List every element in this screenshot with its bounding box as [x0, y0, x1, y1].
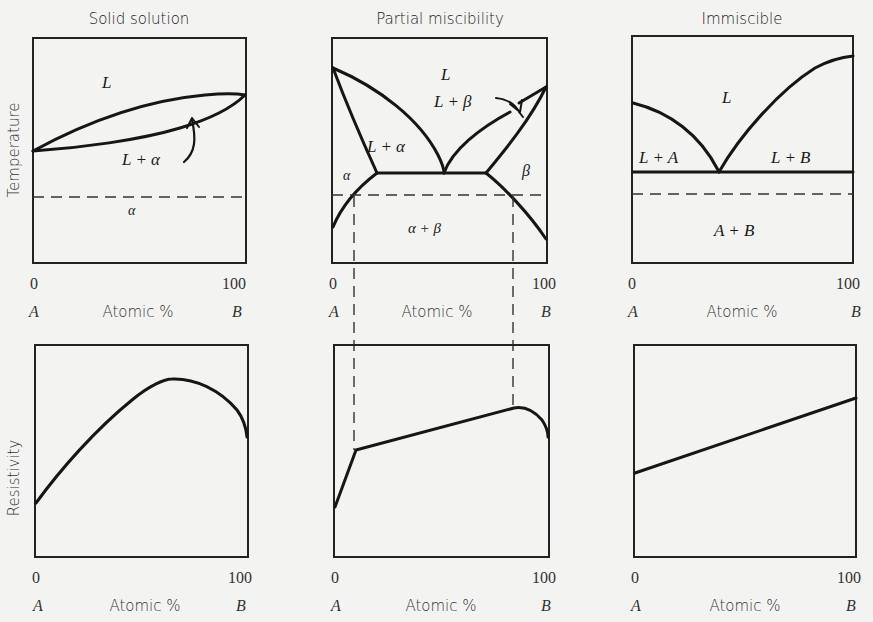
x-tick-0: 0	[628, 275, 636, 292]
liquidus-alpha-curve	[333, 68, 444, 173]
liquidus-beta-curve	[444, 112, 510, 173]
x-end-label-B: B	[541, 303, 551, 320]
x-tick-100: 100	[532, 569, 556, 586]
region-label-L: L	[101, 73, 111, 92]
region-label-L-plus-alpha: L + α	[121, 150, 161, 169]
phase-diagram-solid-solution: L L + α α	[33, 38, 246, 263]
x-tick-100: 100	[532, 275, 556, 292]
region-label-L: L	[440, 65, 450, 84]
x-tick-0: 0	[631, 569, 639, 586]
panel-partial-miscibility: Partial miscibility L L + β	[328, 10, 556, 615]
x-tick-100: 100	[228, 569, 252, 586]
resistivity-plot-immiscible	[634, 345, 856, 557]
x-tick-0: 0	[331, 569, 339, 586]
x-axis-label: Atomic %	[401, 303, 472, 321]
region-label-alpha: α	[128, 203, 136, 218]
panel-immiscible: Immiscible L L + A L + B A + B 0 100 A A…	[627, 10, 861, 615]
region-label-L-plus-alpha: L + α	[366, 137, 406, 156]
solidus-curve	[33, 95, 245, 151]
x-axis-label: Atomic %	[709, 597, 780, 615]
x-axis-label: Atomic %	[102, 303, 173, 321]
phase-diagram-immiscible: L L + A L + B A + B	[632, 36, 853, 263]
region-label-A-plus-B: A + B	[713, 221, 755, 240]
x-end-label-B: B	[541, 597, 551, 614]
x-tick-0: 0	[329, 275, 337, 292]
x-axis-label: Atomic %	[109, 597, 180, 615]
resistivity-plot-solid-solution	[35, 345, 248, 557]
region-label-L-plus-B: L + B	[770, 148, 811, 167]
phase-diagram-figure: Temperature Resistivity Solid solution L…	[0, 0, 873, 622]
x-end-label-A: A	[330, 597, 341, 614]
x-tick-100: 100	[837, 569, 861, 586]
resistivity-curve	[335, 408, 548, 507]
region-label-L-plus-beta: L + β	[433, 92, 472, 111]
x-end-label-A: A	[328, 303, 339, 320]
plot-frame	[35, 345, 248, 557]
x-end-label-B: B	[846, 597, 856, 614]
x-end-label-A: A	[28, 303, 39, 320]
region-label-L: L	[721, 88, 731, 107]
y-axis-label-temperature: Temperature	[5, 102, 23, 197]
x-end-label-A: A	[627, 303, 638, 320]
solvus-beta-curve	[486, 173, 546, 239]
x-tick-100: 100	[222, 275, 246, 292]
x-end-label-B: B	[232, 303, 242, 320]
x-end-label-B: B	[851, 303, 861, 320]
panel-solid-solution: Solid solution L L + α α 0 100 A Atomic …	[28, 10, 252, 615]
x-tick-0: 0	[30, 275, 38, 292]
solidus-alpha-curve	[333, 68, 377, 173]
resistivity-plot-partial-miscibility	[334, 345, 549, 557]
x-tick-100: 100	[836, 275, 860, 292]
liquidus-curve	[33, 94, 245, 151]
solidus-beta-curve	[486, 87, 546, 173]
resistivity-curve	[36, 379, 247, 503]
panel-title: Partial miscibility	[376, 10, 504, 28]
x-axis-label: Atomic %	[706, 303, 777, 321]
x-tick-0: 0	[32, 569, 40, 586]
phase-diagram-partial-miscibility: L L + β L + α α β α + β	[332, 38, 547, 263]
plot-frame	[334, 345, 549, 557]
resistivity-curve	[635, 398, 856, 473]
panel-title: Solid solution	[89, 10, 190, 28]
x-end-label-A: A	[630, 597, 641, 614]
plot-frame	[634, 345, 856, 557]
arrow-tail-mark	[519, 112, 523, 117]
x-axis-label: Atomic %	[405, 597, 476, 615]
region-label-beta: β	[521, 162, 530, 180]
region-label-L-plus-A: L + A	[638, 148, 679, 167]
x-end-label-A: A	[32, 597, 43, 614]
x-end-label-B: B	[236, 597, 246, 614]
region-label-alpha: α	[343, 168, 351, 183]
region-label-alpha-plus-beta: α + β	[408, 220, 441, 236]
solvus-alpha-curve	[333, 173, 377, 227]
y-axis-label-resistivity: Resistivity	[5, 440, 23, 517]
panel-title: Immiscible	[702, 10, 783, 28]
